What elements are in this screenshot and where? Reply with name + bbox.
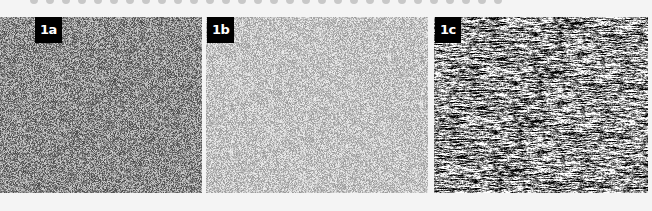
decorative-dot bbox=[414, 0, 422, 4]
noise-image-1a bbox=[0, 17, 202, 193]
decorative-dot bbox=[222, 0, 230, 4]
decorative-dot bbox=[174, 0, 182, 4]
decorative-dot bbox=[190, 0, 198, 4]
decorative-dot bbox=[254, 0, 262, 4]
decorative-dot bbox=[462, 0, 470, 4]
decorative-dot bbox=[110, 0, 118, 4]
decorative-dot bbox=[446, 0, 454, 4]
decorative-dot bbox=[302, 0, 310, 4]
decorative-dot bbox=[366, 0, 374, 4]
panel-1b: 1b bbox=[206, 17, 428, 193]
decorative-dot bbox=[334, 0, 342, 4]
decorative-dot bbox=[270, 0, 278, 4]
decorative-dot bbox=[286, 0, 294, 4]
decorative-dot bbox=[430, 0, 438, 4]
decorative-dot bbox=[30, 0, 38, 4]
panel-1c: 1c bbox=[434, 17, 648, 193]
panel-label-1c: 1c bbox=[435, 17, 461, 43]
panel-1a: 1a bbox=[0, 17, 202, 193]
top-dot-strip bbox=[30, 0, 502, 4]
decorative-dot bbox=[126, 0, 134, 4]
decorative-dot bbox=[478, 0, 486, 4]
panel-label-1b: 1b bbox=[207, 17, 234, 43]
decorative-dot bbox=[78, 0, 86, 4]
decorative-dot bbox=[62, 0, 70, 4]
decorative-dot bbox=[382, 0, 390, 4]
noise-image-1b bbox=[206, 17, 428, 193]
decorative-dot bbox=[46, 0, 54, 4]
decorative-dot bbox=[94, 0, 102, 4]
panel-label-1a: 1a bbox=[35, 17, 62, 43]
decorative-dot bbox=[350, 0, 358, 4]
noise-image-1c bbox=[434, 17, 648, 193]
decorative-dot bbox=[238, 0, 246, 4]
decorative-dot bbox=[206, 0, 214, 4]
decorative-dot bbox=[158, 0, 166, 4]
decorative-dot bbox=[142, 0, 150, 4]
decorative-dot bbox=[494, 0, 502, 4]
decorative-dot bbox=[398, 0, 406, 4]
decorative-dot bbox=[318, 0, 326, 4]
